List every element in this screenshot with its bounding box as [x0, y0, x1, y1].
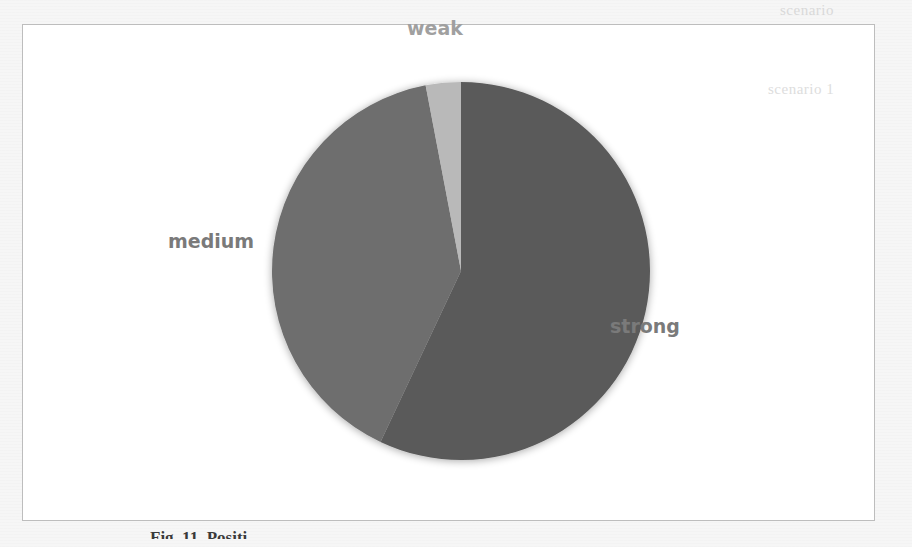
- pie-chart: [23, 25, 876, 522]
- slice-label-strong: strong: [610, 315, 680, 337]
- slice-label-medium: medium: [168, 230, 254, 252]
- slice-label-weak: weak: [407, 17, 463, 39]
- bleed-through-text: scenario 1: [768, 81, 834, 98]
- bleed-through-text: scenario: [780, 2, 834, 19]
- chart-frame: weak medium strong scenario 1: [22, 24, 875, 521]
